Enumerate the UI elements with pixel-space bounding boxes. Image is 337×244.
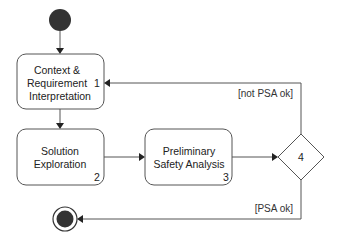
- activity-3: Preliminary Safety Analysis 3: [145, 129, 232, 185]
- arrowhead-icon: [77, 215, 83, 223]
- arrowhead-icon: [56, 123, 64, 129]
- activity-3-line-1: Preliminary: [163, 145, 216, 157]
- guard-psa-ok: [PSA ok]: [255, 203, 294, 214]
- arrowhead-icon: [272, 153, 278, 161]
- activity-3-line-2: Safety Analysis: [153, 158, 224, 170]
- activity-1-number: 1: [94, 77, 100, 89]
- activity-1-line-2: Requirement: [27, 77, 87, 89]
- activity-3-number: 3: [223, 171, 229, 183]
- activity-diagram: Context & Requirement Interpretation 1 S…: [0, 0, 337, 244]
- decision-4: 4: [278, 134, 324, 180]
- arrowhead-icon: [104, 79, 110, 87]
- arrowhead-icon: [139, 153, 145, 161]
- activity-1: Context & Requirement Interpretation 1: [17, 54, 104, 109]
- final-node: [53, 207, 77, 231]
- activity-2-line-2: Exploration: [34, 158, 87, 170]
- activity-2-number: 2: [94, 171, 100, 183]
- decision-4-number: 4: [298, 151, 304, 163]
- arrowhead-icon: [56, 48, 64, 54]
- initial-node: [49, 9, 71, 31]
- activity-1-line-1: Context &: [34, 64, 80, 76]
- activity-1-line-3: Interpretation: [29, 90, 91, 102]
- activity-2-line-1: Solution: [41, 145, 79, 157]
- activity-2: Solution Exploration 2: [17, 129, 104, 185]
- guard-not-psa-ok: [not PSA ok]: [238, 88, 293, 99]
